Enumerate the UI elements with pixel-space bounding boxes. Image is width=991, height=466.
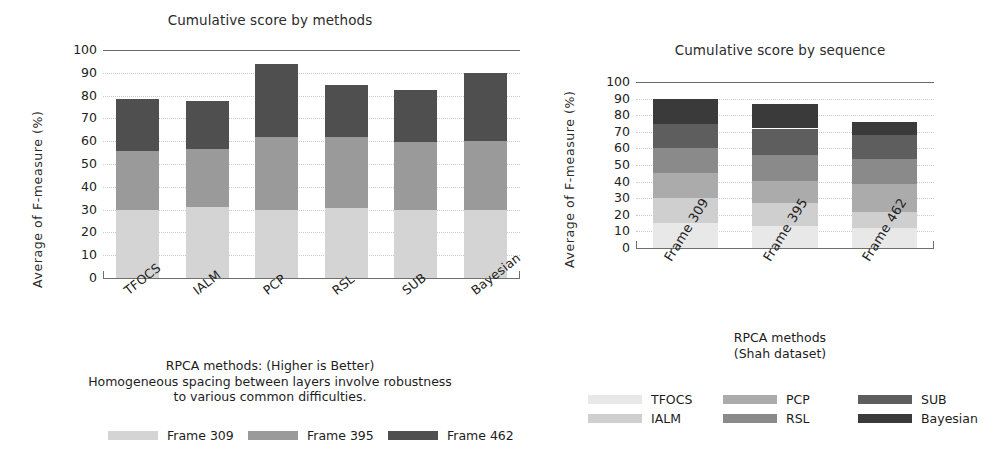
y-axis-tick-label: 70 [590,126,630,139]
y-axis-tick-label: 50 [57,158,97,171]
legend-swatch-icon [248,431,298,440]
y-axis-tick-label: 0 [590,242,630,255]
legend-label: Bayesian [921,411,978,426]
y-axis-tick-label: 20 [57,226,97,239]
bar-segment-frame-395 [186,149,229,207]
bar-segment-bayesian [653,99,719,124]
bar-segment-frame-395 [255,137,298,210]
legend-item[interactable]: TFOCS [588,392,692,407]
figure-root: Cumulative score by methods Average of F… [0,0,991,466]
y-axis-tick-label: 100 [57,44,97,57]
bar-segment-frame-462 [464,73,507,141]
bar-segment-frame-309 [255,210,298,278]
bar-segment-frame-395 [394,142,437,209]
bar-segment-frame-309 [186,207,229,278]
bar-segment-frame-309 [394,210,437,278]
legend-item[interactable]: SUB [858,392,947,407]
bar-sub[interactable] [394,50,437,278]
bar-segment-rsl [852,159,918,184]
x-axis-end-cap [519,271,520,278]
gridline [103,96,520,97]
legend-swatch-icon [388,431,438,440]
legend-swatch-icon [858,395,912,404]
bar-segment-frame-462 [394,90,437,142]
y-axis-tick-label: 40 [590,175,630,188]
gridline [103,210,520,211]
bar-segment-frame-462 [186,101,229,149]
legend-swatch-icon [108,431,158,440]
legend-swatch-icon [723,395,777,404]
x-axis-end-cap [636,241,637,248]
gridline [103,232,520,233]
legend-label: SUB [921,392,947,407]
left-chart-title: Cumulative score by methods [0,12,540,28]
left-y-axis-label: Average of F-measure (%) [30,110,45,288]
legend-label: RSL [786,411,810,426]
bar-segment-rsl [752,155,818,181]
bar-segment-sub [752,129,818,156]
bar-segment-frame-462 [325,85,368,136]
right-y-axis-label: Average of F-measure (%) [562,90,577,268]
y-axis-tick-label: 90 [590,92,630,105]
y-axis-tick-label: 30 [590,192,630,205]
gridline [103,164,520,165]
bar-segment-sub [852,135,918,159]
legend-item[interactable]: Frame 395 [248,428,374,443]
legend-item[interactable]: PCP [723,392,810,407]
left-x-axis-caption: RPCA methods: (Higher is Better) Homogen… [40,358,500,405]
y-axis-tick-label: 100 [590,76,630,89]
y-axis-tick-label: 0 [57,272,97,285]
legend-label: PCP [786,392,810,407]
bar-pcp[interactable] [255,50,298,278]
bar-tfocs[interactable] [116,50,159,278]
legend-item[interactable]: Frame 309 [108,428,234,443]
gridline [103,73,520,74]
bar-segment-frame-395 [116,151,159,209]
bar-segment-frame-462 [116,99,159,151]
legend-item[interactable]: RSL [723,411,810,426]
legend-label: TFOCS [651,392,692,407]
y-axis-tick-label: 80 [590,109,630,122]
y-axis-tick-label: 30 [57,203,97,216]
legend-swatch-icon [588,414,642,423]
gridline [103,141,520,142]
x-axis-end-cap [933,241,934,248]
right-x-axis-caption: RPCA methods (Shah dataset) [640,330,920,361]
bar-ialm[interactable] [186,50,229,278]
legend-label: IALM [651,411,681,426]
legend-item[interactable]: Bayesian [858,411,978,426]
gridline [103,187,520,188]
y-axis-tick-label: 10 [57,249,97,262]
y-axis-tick-label: 10 [590,225,630,238]
bar-segment-pcp [852,184,918,212]
bar-segment-bayesian [752,104,818,129]
y-axis-tick-label: 60 [590,142,630,155]
y-axis-tick-label: 70 [57,112,97,125]
bar-segment-pcp [653,173,719,198]
bar-segment-pcp [752,181,818,203]
bar-rsl[interactable] [325,50,368,278]
gridline [103,118,520,119]
bar-segment-frame-395 [464,141,507,209]
x-axis-line [103,278,520,279]
legend-item[interactable]: Frame 462 [388,428,514,443]
y-axis-tick-label: 50 [590,159,630,172]
gridline [103,255,520,256]
legend-item[interactable]: IALM [588,411,681,426]
bar-segment-bayesian [852,122,918,135]
x-axis-end-cap [103,271,104,278]
bar-segment-rsl [653,148,719,173]
bar-segment-frame-395 [325,137,368,209]
bar-segment-frame-309 [325,208,368,278]
legend-swatch-icon [858,414,912,423]
left-plot-area [103,50,520,278]
bar-segment-frame-462 [255,64,298,137]
legend-label: Frame 462 [447,428,514,443]
legend-label: Frame 309 [167,428,234,443]
y-axis-tick-label: 40 [57,181,97,194]
legend-label: Frame 395 [307,428,374,443]
y-axis-tick-label: 60 [57,135,97,148]
y-axis-tick-label: 80 [57,89,97,102]
bar-bayesian[interactable] [464,50,507,278]
y-axis-tick-label: 90 [57,67,97,80]
